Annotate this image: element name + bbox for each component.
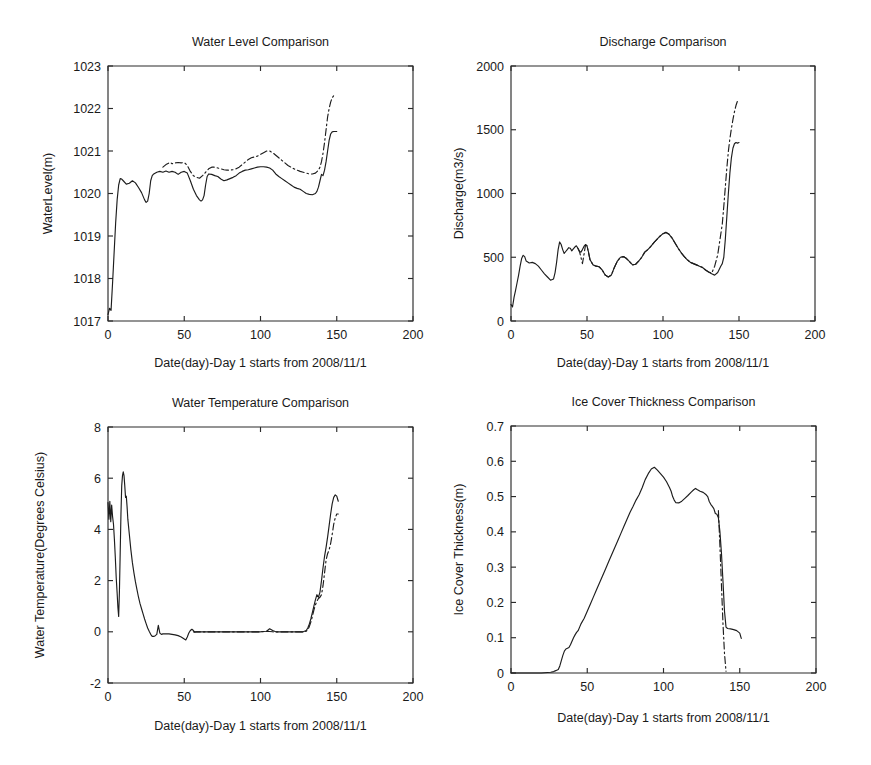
y-axis-tick-label: 1500 xyxy=(476,123,504,137)
y-axis-tick-label: 0.7 xyxy=(487,420,504,434)
y-axis-label: Water Temperature(Degrees Celsius) xyxy=(33,452,47,658)
x-axis-tick-label: 200 xyxy=(403,328,424,342)
y-axis-tick-label: 1021 xyxy=(73,145,101,159)
x-axis-tick-label: 0 xyxy=(508,328,515,342)
x-axis-tick-label: 200 xyxy=(403,690,424,704)
series-line-solid xyxy=(108,472,338,640)
y-axis-tick-label: 0.6 xyxy=(487,455,504,469)
x-axis-label: Date(day)-Day 1 starts from 2008/11/1 xyxy=(557,356,769,370)
series-line-dashdot xyxy=(718,511,726,672)
y-axis-tick-label: 0.5 xyxy=(487,490,504,504)
x-axis-tick-label: 150 xyxy=(326,690,347,704)
plot-frame xyxy=(511,426,816,673)
x-axis-tick-label: 150 xyxy=(326,328,347,342)
x-axis-tick-label: 150 xyxy=(729,328,750,342)
series-line-solid xyxy=(511,467,741,673)
y-axis-tick-label: 0.1 xyxy=(487,631,504,645)
y-axis-tick-label: 0 xyxy=(94,625,101,639)
y-axis-label: Discharge(m3/s) xyxy=(452,148,466,240)
y-axis-tick-label: 1019 xyxy=(73,230,101,244)
y-axis-tick-label: 500 xyxy=(483,251,504,265)
y-axis-tick-label: 1022 xyxy=(73,102,101,116)
y-axis-tick-label: 0 xyxy=(497,315,504,329)
figure-canvas: 1017101810191020102110221023050100150200… xyxy=(0,0,871,765)
y-axis-tick-label: 0.2 xyxy=(487,596,504,610)
y-axis-tick-label: 8 xyxy=(94,421,101,435)
series-line-dashdot xyxy=(163,96,335,178)
panel-water-temperature: -202468050100150200Water Temperature Com… xyxy=(0,385,435,760)
y-axis-tick-label: 1017 xyxy=(73,315,101,329)
x-axis-label: Date(day)-Day 1 starts from 2008/11/1 xyxy=(154,356,366,370)
x-axis-tick-label: 50 xyxy=(177,328,191,342)
x-axis-tick-label: 100 xyxy=(653,328,674,342)
y-axis-tick-label: 1000 xyxy=(476,187,504,201)
chart-title: Ice Cover Thickness Comparison xyxy=(572,395,756,409)
series-line-dashdot xyxy=(578,100,739,277)
x-axis-tick-label: 0 xyxy=(105,328,112,342)
y-axis-label: WaterLevel(m) xyxy=(41,153,55,235)
x-axis-tick-label: 50 xyxy=(177,690,191,704)
series-line-dashdot xyxy=(193,514,338,632)
x-axis-tick-label: 200 xyxy=(806,680,827,694)
x-axis-label: Date(day)-Day 1 starts from 2008/11/1 xyxy=(154,719,366,733)
x-axis-tick-label: 0 xyxy=(508,680,515,694)
ice-cover-chart-svg: 00.10.20.30.40.50.60.7050100150200Ice Co… xyxy=(436,385,871,760)
x-axis-tick-label: 50 xyxy=(580,680,594,694)
y-axis-label: Ice Cover Thickness(m) xyxy=(452,484,466,616)
water-level-chart-svg: 1017101810191020102110221023050100150200… xyxy=(0,22,435,382)
y-axis-tick-label: 2000 xyxy=(476,60,504,74)
x-axis-tick-label: 200 xyxy=(805,328,826,342)
chart-title: Water Temperature Comparison xyxy=(172,396,349,410)
y-axis-tick-label: 6 xyxy=(94,472,101,486)
y-axis-tick-label: 1018 xyxy=(73,272,101,286)
water-temperature-chart-svg: -202468050100150200Water Temperature Com… xyxy=(0,385,435,760)
y-axis-tick-label: 0.3 xyxy=(487,561,504,575)
x-axis-tick-label: 100 xyxy=(250,690,271,704)
x-axis-tick-label: 0 xyxy=(105,690,112,704)
y-axis-tick-label: -2 xyxy=(90,677,101,691)
x-axis-tick-label: 150 xyxy=(729,680,750,694)
series-line-solid xyxy=(511,143,739,307)
panel-discharge: 0500100015002000050100150200Discharge Co… xyxy=(436,22,871,382)
plot-frame xyxy=(108,66,413,321)
series-line-solid xyxy=(108,131,337,314)
y-axis-tick-label: 1020 xyxy=(73,187,101,201)
y-axis-tick-label: 4 xyxy=(94,523,101,537)
plot-frame xyxy=(108,427,413,683)
x-axis-label: Date(day)-Day 1 starts from 2008/11/1 xyxy=(557,711,769,725)
x-axis-tick-label: 50 xyxy=(580,328,594,342)
y-axis-tick-label: 0 xyxy=(497,667,504,681)
chart-title: Discharge Comparison xyxy=(599,35,726,49)
chart-title: Water Level Comparison xyxy=(192,35,329,49)
y-axis-tick-label: 2 xyxy=(94,574,101,588)
y-axis-tick-label: 1023 xyxy=(73,60,101,74)
panel-ice-cover-thickness: 00.10.20.30.40.50.60.7050100150200Ice Co… xyxy=(436,385,871,760)
x-axis-tick-label: 100 xyxy=(653,680,674,694)
plot-frame xyxy=(511,66,815,321)
y-axis-tick-label: 0.4 xyxy=(487,525,504,539)
panel-water-level: 1017101810191020102110221023050100150200… xyxy=(0,22,435,382)
x-axis-tick-label: 100 xyxy=(250,328,271,342)
discharge-chart-svg: 0500100015002000050100150200Discharge Co… xyxy=(436,22,871,382)
